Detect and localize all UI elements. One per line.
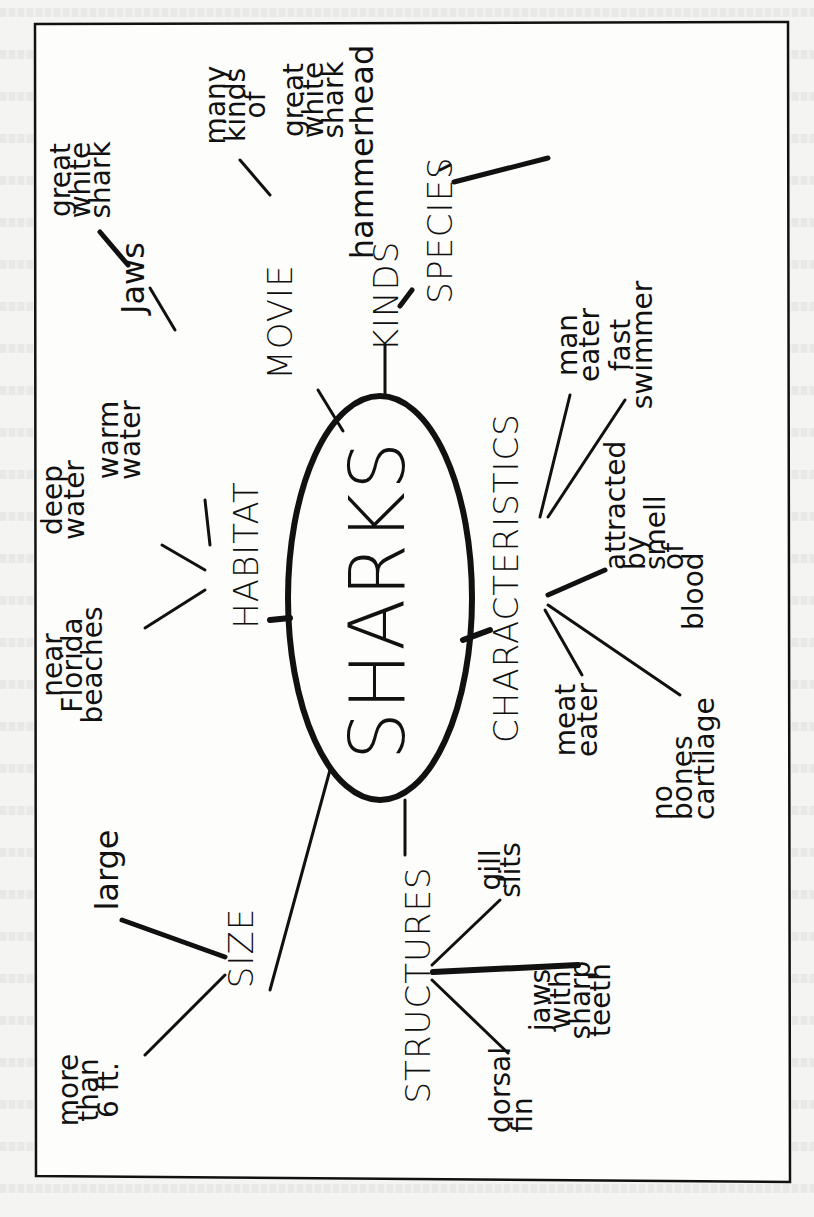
leaf-warm-water: warm water (92, 400, 147, 480)
svg-text:6 ft.: 6 ft. (92, 1062, 125, 1118)
svg-text:blood: blood (677, 552, 710, 630)
semantic-map: SHARKS MOVIE KINDS SPECIES HABITAT CHARA… (0, 0, 814, 1217)
leaf-jaws: Jaws (114, 242, 152, 316)
center-node-label: SHARKS (333, 440, 422, 760)
node-characteristics: CHARACTERISTICS (486, 413, 526, 743)
leaf-meat-eater: meat eater (549, 682, 604, 757)
leaf-great-white-shark-species: great white shark (277, 61, 350, 139)
svg-text:cartilage: cartilage (688, 697, 721, 820)
svg-text:teeth: teeth (584, 963, 617, 1037)
leaf-deep-water: deep water (36, 460, 91, 540)
svg-text:eater: eater (573, 307, 606, 382)
svg-text:beaches: beaches (76, 606, 109, 723)
node-habitat: HABITAT (226, 481, 266, 629)
node-species: SPECIES (420, 156, 460, 303)
svg-text:water: water (114, 400, 147, 480)
svg-text:swimmer: swimmer (626, 280, 659, 409)
svg-text:eater: eater (571, 682, 604, 757)
leaf-large: large (88, 829, 126, 910)
svg-text:water: water (58, 460, 91, 540)
svg-text:slits: slits (494, 842, 527, 898)
leaf-hammerhead: hammerhead (343, 45, 381, 259)
leaf-man-eater: man eater (551, 307, 606, 382)
node-movie: MOVIE (260, 264, 300, 379)
svg-text:of: of (239, 90, 272, 118)
svg-text:fin: fin (506, 1097, 539, 1132)
node-structures: STRUCTURES (398, 867, 438, 1104)
svg-text:shark: shark (84, 141, 117, 219)
leaf-gill-slits: gill slits (474, 842, 527, 898)
leaf-jaws-with-sharp-teeth: jaws with sharp teeth (524, 961, 617, 1040)
leaf-more-than-6-ft: more than 6 ft. (52, 1054, 125, 1127)
node-size: SIZE (221, 908, 261, 988)
leaf-great-white-shark-movie: great white shark (44, 141, 117, 219)
